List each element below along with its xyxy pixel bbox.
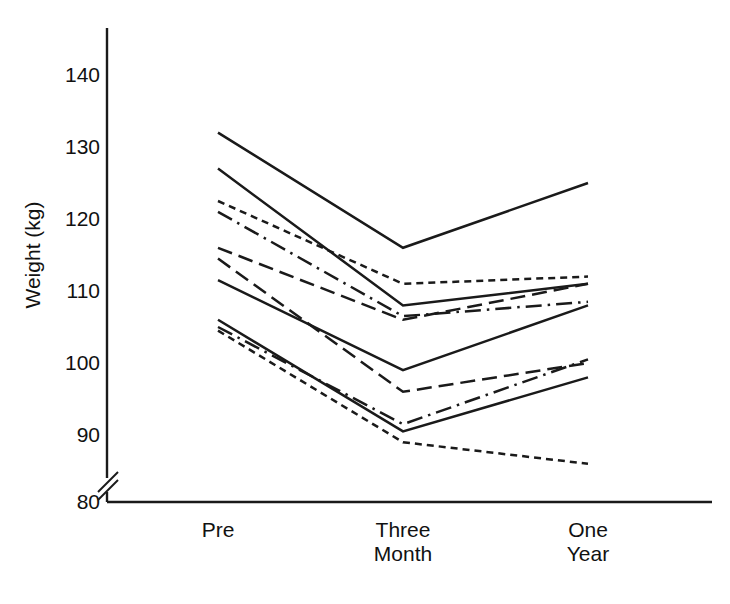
series-line (218, 212, 588, 316)
series-line (218, 331, 588, 464)
series-line (218, 327, 588, 424)
series-line (218, 169, 588, 306)
plot-area (0, 0, 730, 604)
series-line (218, 320, 588, 432)
series-line (218, 248, 588, 320)
weight-change-line-chart: Weight (kg) 1401301201101009080 PreThree… (0, 0, 730, 604)
data-series-group (218, 133, 588, 464)
series-line (218, 133, 588, 248)
